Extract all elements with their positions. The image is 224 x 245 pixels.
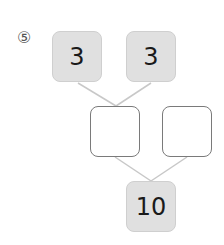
top-left-number-box: 3: [52, 31, 102, 82]
number-bond-diagram: ⑤ 3 3 10: [0, 0, 224, 245]
bottom-total-box: 10: [126, 181, 176, 232]
connector-line: [151, 157, 187, 181]
connector-line: [78, 83, 116, 106]
connector-line: [115, 157, 151, 181]
connector-line: [116, 83, 151, 106]
middle-right-answer-box[interactable]: [162, 106, 212, 157]
top-right-number-box: 3: [126, 31, 176, 82]
problem-number: ⑤: [17, 28, 31, 48]
middle-left-answer-box[interactable]: [90, 106, 140, 157]
